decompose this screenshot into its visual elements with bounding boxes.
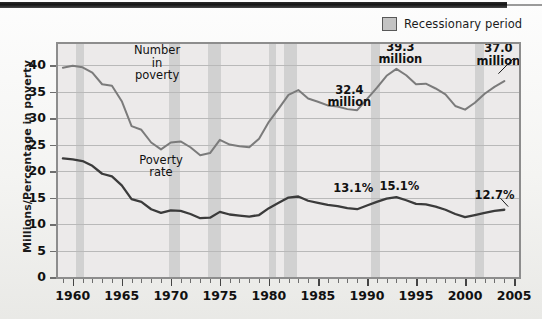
x-tick-major (318, 278, 320, 286)
x-tick-label: 2005 (497, 288, 532, 303)
x-tick-label: 1985 (301, 288, 336, 303)
x-tick-label: 1965 (104, 288, 139, 303)
x-tick-label: 1990 (350, 288, 385, 303)
x-tick-major (416, 278, 418, 286)
series-line-number-in-poverty (63, 66, 504, 155)
y-tick-label: 20 (24, 163, 46, 178)
y-axis-title: Millions/Percentage in poverty (21, 37, 34, 277)
y-tick-label: 40 (24, 57, 46, 72)
x-tick-major (367, 278, 369, 286)
y-tick-label: 0 (24, 269, 46, 284)
x-tick-label: 1975 (202, 288, 237, 303)
x-tick-label: 1995 (399, 288, 434, 303)
y-tick-label: 15 (24, 190, 46, 205)
recession-swatch-icon (382, 17, 397, 31)
plot-area: Number in povertyPoverty rate32.4 millio… (56, 42, 521, 279)
x-tick-major (73, 278, 75, 286)
leader-37-million (498, 59, 513, 74)
series-lines (58, 44, 519, 277)
top-divider-tail (507, 4, 542, 6)
series-line-poverty-rate (63, 158, 504, 218)
y-tick-label: 5 (24, 243, 46, 258)
x-tick-major (465, 278, 467, 286)
x-tick-label: 1960 (55, 288, 90, 303)
legend-label: Recessionary period (404, 17, 522, 31)
x-tick-major (514, 278, 516, 286)
y-tick-label: 30 (24, 110, 46, 125)
y-tick-label: 25 (24, 137, 46, 152)
x-tick-label: 1970 (153, 288, 188, 303)
x-tick-label: 2000 (448, 288, 483, 303)
y-tick-label: 10 (24, 216, 46, 231)
y-tick-label: 35 (24, 84, 46, 99)
x-tick-major (122, 278, 124, 286)
x-tick-major (220, 278, 222, 286)
top-divider-bar (0, 2, 507, 8)
x-tick-major (171, 278, 173, 286)
x-tick-major (269, 278, 271, 286)
plot-inner: Number in povertyPoverty rate32.4 millio… (58, 44, 519, 277)
x-tick-label: 1980 (251, 288, 286, 303)
leader-12-7-percent (500, 198, 508, 207)
legend: Recessionary period (382, 17, 522, 31)
figure: Recessionary period Millions/Percentage … (0, 0, 542, 319)
